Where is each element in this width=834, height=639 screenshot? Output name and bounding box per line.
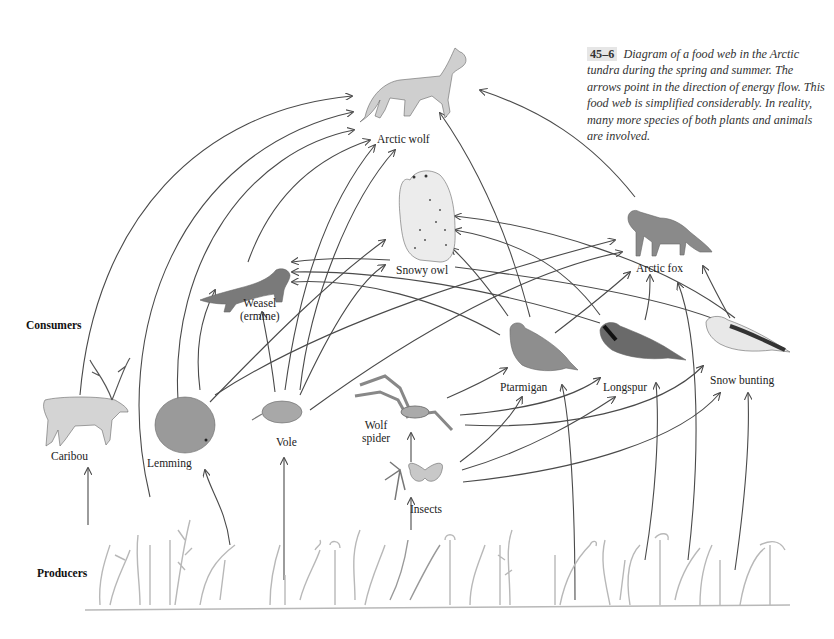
arrow-producers-to-longspur bbox=[645, 383, 657, 560]
wolf-spider-label: Wolf spider bbox=[362, 419, 390, 445]
weasel-alt-name: (ermine) bbox=[240, 310, 280, 323]
arrow-caribou-to-wolf bbox=[80, 96, 352, 395]
arrow-longspur-to-fox bbox=[645, 275, 650, 320]
snowy-owl-illustration bbox=[399, 171, 455, 262]
arrow-owl-to-weasel bbox=[292, 259, 390, 262]
lemming-illustration bbox=[155, 397, 215, 453]
arrow-producers-to-bunting bbox=[735, 393, 748, 570]
arrow-owl-label-to-bunting bbox=[455, 267, 740, 330]
figure-number: 45–6 bbox=[587, 47, 617, 61]
arrow-spider-to-ptarmigan bbox=[447, 368, 507, 398]
longspur-illustration bbox=[600, 323, 686, 360]
arrow-ptarmigan-to-owl bbox=[452, 248, 508, 316]
caribou-illustration bbox=[44, 358, 130, 446]
arrow-weasel-to-wolf bbox=[248, 140, 370, 262]
arrow-vole-to-weasel bbox=[262, 312, 275, 392]
wolf-spider-name-1: Wolf bbox=[362, 419, 390, 432]
arrow-ptarmigan-to-fox bbox=[555, 272, 630, 333]
ptarmigan-illustration bbox=[510, 323, 578, 371]
arrow-producers-to-fox bbox=[678, 283, 696, 560]
caribou-label: Caribou bbox=[51, 450, 88, 463]
arctic-fox-label: Arctic fox bbox=[636, 262, 683, 275]
ptarmigan-label: Ptarmigan bbox=[500, 381, 547, 394]
arrow-longspur-to-weasel bbox=[292, 272, 600, 323]
caption-text: Diagram of a food web in the Arctic tund… bbox=[587, 47, 825, 143]
consumers-label: Consumers bbox=[26, 319, 82, 331]
snow-bunting-illustration bbox=[706, 316, 790, 352]
producers-label: Producers bbox=[37, 567, 87, 579]
arrow-bunting-to-owl bbox=[455, 216, 735, 318]
arrow-lemming-to-weasel bbox=[198, 290, 215, 390]
longspur-label: Longspur bbox=[603, 381, 647, 394]
figure-caption: 45–6Diagram of a food web in the Arctic … bbox=[587, 46, 827, 144]
vole-illustration bbox=[252, 401, 302, 423]
arrow-lemming-to-wolf bbox=[177, 130, 354, 400]
vole-label: Vole bbox=[276, 436, 297, 449]
arrow-vole-to-owl bbox=[300, 265, 385, 395]
insects-illustration bbox=[385, 462, 443, 500]
arctic-wolf-label: Arctic wolf bbox=[377, 133, 430, 146]
arrow-producers-to-lemming bbox=[205, 470, 230, 545]
weasel-label: Weasel (ermine) bbox=[240, 297, 280, 323]
producers-plants-illustration bbox=[85, 520, 790, 610]
arctic-fox-illustration bbox=[628, 210, 712, 256]
lemming-label: Lemming bbox=[147, 457, 192, 470]
arrow-vole-to-fox bbox=[310, 252, 622, 410]
snow-bunting-label: Snow bunting bbox=[710, 374, 774, 387]
arctic-wolf-illustration bbox=[360, 48, 466, 122]
arrow-insects-to-bunting bbox=[463, 393, 720, 482]
wolf-spider-name-2: spider bbox=[362, 432, 390, 445]
weasel-name: Weasel bbox=[240, 297, 280, 310]
insects-label: Insects bbox=[410, 503, 442, 516]
snowy-owl-label: Snowy owl bbox=[396, 264, 448, 277]
arrow-bunting-to-fox bbox=[703, 266, 730, 318]
